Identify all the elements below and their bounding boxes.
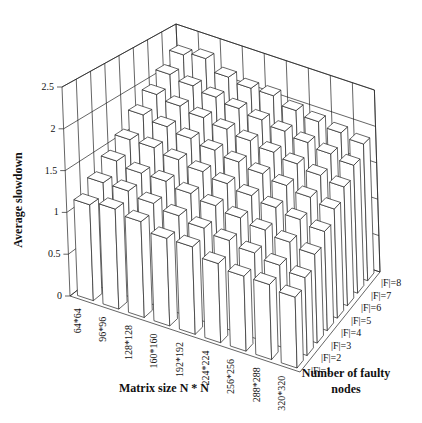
bar	[254, 273, 279, 360]
y-tick-label: |F|=4	[341, 327, 361, 338]
x-tick-label: 256*256	[225, 359, 236, 394]
z-tick-label: 0	[57, 290, 62, 301]
chart-bars	[74, 45, 374, 368]
y-tick-label: |F|=5	[351, 315, 371, 326]
x-tick-label: 64*64	[72, 308, 83, 333]
bar	[177, 235, 203, 334]
y-tick-label: |F|=7	[371, 290, 391, 301]
x-tick-label: 192*192	[174, 342, 185, 377]
bar-front-face	[279, 292, 297, 368]
back-right-edge	[374, 90, 380, 272]
bar	[151, 227, 178, 326]
bar-front-face	[228, 271, 246, 351]
y-tick-label: |F|=2	[321, 352, 341, 363]
bar3d-chart: 00.511.522.564*6496*96128*128160*160192*…	[0, 0, 422, 423]
x-tick-label: 320*320	[276, 376, 287, 411]
y-tick-label: |F|=6	[361, 302, 381, 313]
y-axis-title-line2: nodes	[331, 382, 361, 396]
z-tick-label: 1.5	[45, 165, 58, 176]
x-tick-label: 160*160	[148, 334, 159, 369]
z-tick-label: 2.5	[42, 81, 55, 92]
bar	[279, 285, 303, 368]
y-tick-label: |F|=8	[381, 277, 401, 288]
chart-canvas: 00.511.522.564*6496*96128*128160*160192*…	[0, 0, 422, 423]
x-tick-label: 96*96	[97, 317, 108, 342]
y-tick-label: |F|=3	[331, 340, 351, 351]
z-axis-title: Average slowdown	[11, 152, 25, 248]
bar-front-face	[254, 279, 272, 359]
x-axis-title: Matrix size N * N	[119, 381, 209, 395]
bar	[228, 264, 253, 351]
bar-front-face	[202, 258, 220, 342]
bar	[74, 194, 102, 301]
bar	[125, 210, 152, 317]
z-tick-label: 2	[51, 123, 56, 134]
bar	[99, 198, 127, 309]
z-tick-label: 0.5	[48, 248, 61, 259]
z-tick-label: 1	[54, 206, 59, 217]
y-axis-title-line1: Number of faulty	[302, 366, 390, 380]
x-tick-label: 128*128	[123, 325, 134, 360]
x-tick-label: 288*288	[251, 367, 262, 402]
bar	[202, 252, 227, 343]
